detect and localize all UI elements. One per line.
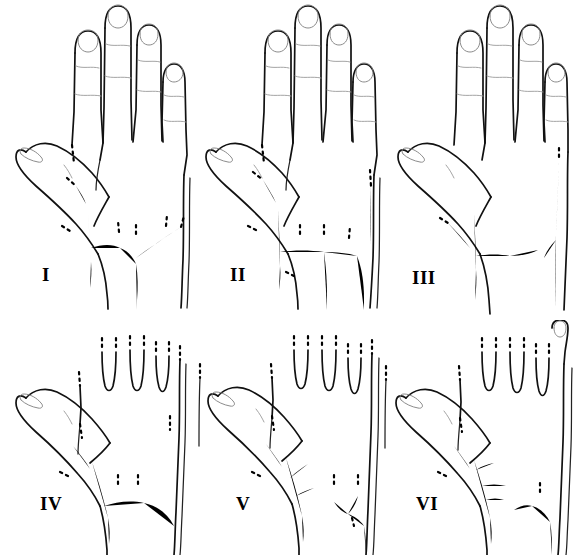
panel-iii: III [382, 0, 577, 315]
figure-dorsal-hand-venous-patterns: I [0, 0, 577, 555]
panel-label-ii: II [230, 264, 246, 285]
panel-label-v: V [236, 493, 250, 514]
panel-label-iv: IV [40, 493, 62, 514]
vein-network-iv [60, 416, 174, 555]
hand-outline-vi [385, 320, 572, 555]
vein-network-ii [248, 145, 371, 310]
panel-label-iii: III [412, 267, 436, 288]
panel-label-i: I [42, 264, 50, 285]
vein-network-v [252, 416, 366, 555]
hand-outline-iv [16, 336, 186, 555]
panel-iv: IV [0, 320, 195, 555]
panel-label-vi: VI [416, 493, 438, 514]
hand-outline-v [199, 336, 379, 555]
panel-vi: VI [380, 320, 577, 555]
panel-i: I [0, 0, 195, 310]
panel-ii: II [190, 0, 385, 310]
vein-network-vi [438, 418, 552, 555]
vein-network-i [62, 145, 184, 310]
panel-v: V [192, 320, 387, 555]
vein-network-iii [440, 148, 559, 315]
